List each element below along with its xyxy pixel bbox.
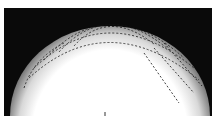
l-mark-icon [104, 112, 118, 116]
ridge-pattern [4, 8, 212, 116]
image-frame [4, 8, 212, 116]
